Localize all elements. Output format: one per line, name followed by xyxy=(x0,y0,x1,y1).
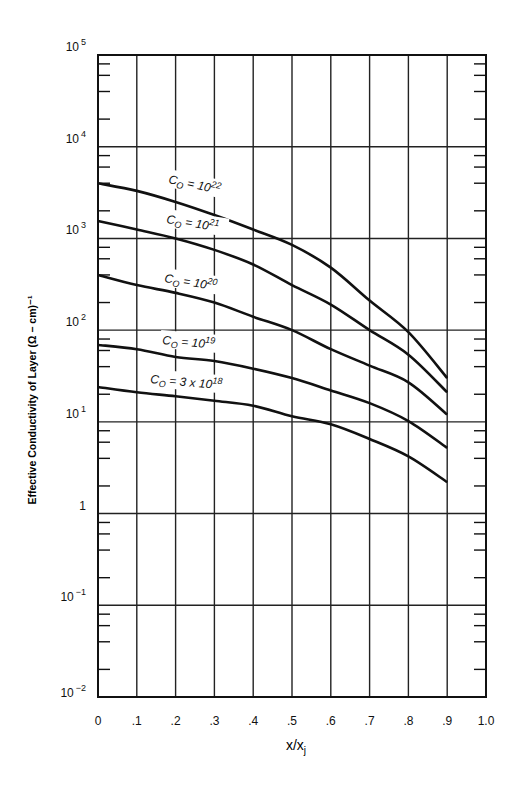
y-tick-label: 105 xyxy=(66,37,86,54)
curve-label: CO = 3 x 1018 xyxy=(148,369,237,396)
y-tick-label: 1 xyxy=(79,499,86,513)
curve-label: CO = 1021 xyxy=(163,209,229,238)
x-tick-label: .8 xyxy=(403,714,413,728)
x-tick-label: .2 xyxy=(171,714,181,728)
y-tick-label: 10−2 xyxy=(60,683,86,700)
x-tick-label: .6 xyxy=(326,714,336,728)
x-tick-label: 0 xyxy=(95,714,102,728)
curve xyxy=(98,345,447,448)
y-tick-label: 103 xyxy=(66,220,86,237)
y-tick-label: 102 xyxy=(66,312,86,329)
y-tick-label: 10−1 xyxy=(60,587,86,604)
y-axis-tick-labels: 105104103102101110−110−2 xyxy=(60,37,86,700)
x-tick-label: .5 xyxy=(287,714,297,728)
x-axis-tick-labels: 0.1.2.3.4.5.6.7.8.91.0 xyxy=(95,714,495,728)
curve xyxy=(98,221,447,392)
curve-label: CO = 1019 xyxy=(160,330,225,355)
x-tick-label: .4 xyxy=(248,714,258,728)
y-tick-label: 101 xyxy=(66,404,86,421)
x-tick-label: .3 xyxy=(209,714,219,728)
x-tick-label: .9 xyxy=(442,714,452,728)
curve xyxy=(98,387,447,482)
x-tick-label: 1.0 xyxy=(478,714,495,728)
x-tick-label: .1 xyxy=(132,714,142,728)
y-tick-label: 104 xyxy=(66,129,86,146)
x-tick-label: .7 xyxy=(365,714,375,728)
chart: CO = 1022CO = 1021CO = 1020CO = 1019CO =… xyxy=(0,0,515,793)
curve xyxy=(98,183,447,378)
y-axis-label: Effective Conductivity of Layer (Ω − cm)… xyxy=(26,295,38,505)
x-axis-label: x/xj xyxy=(286,737,306,756)
data-curves xyxy=(98,183,447,482)
